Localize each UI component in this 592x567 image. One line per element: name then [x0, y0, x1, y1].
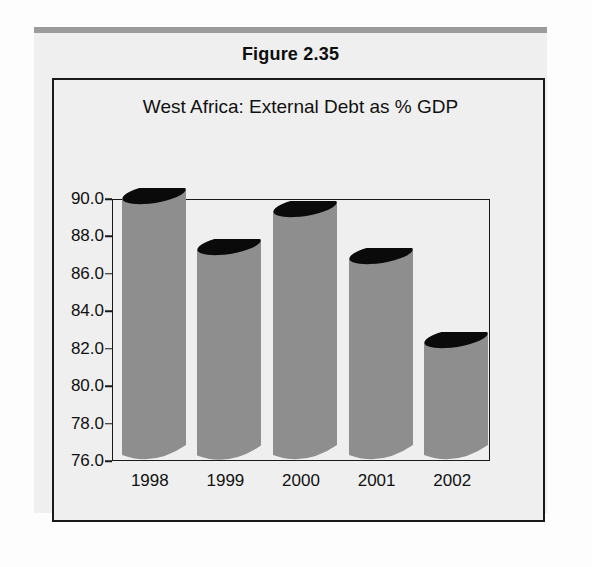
y-axis-tick-label: 84.0	[48, 301, 104, 321]
y-axis-tick-mark	[105, 348, 112, 350]
chart-container: West Africa: External Debt as % GDP 90.0…	[52, 78, 545, 522]
y-axis-tick-mark	[105, 423, 112, 425]
top-rule-divider	[34, 27, 547, 33]
y-axis-tick-label: 78.0	[48, 414, 104, 434]
y-axis-tick-label: 88.0	[48, 226, 104, 246]
y-axis-tick-mark	[105, 273, 112, 275]
bar-2002	[424, 332, 488, 465]
bar-body	[122, 189, 186, 459]
bar-body	[273, 202, 337, 459]
y-axis-tick-label: 80.0	[48, 376, 104, 396]
y-axis-tick-label: 90.0	[48, 189, 104, 209]
x-axis-tick-label: 1999	[206, 471, 244, 491]
bar-body	[349, 249, 413, 459]
y-axis-tick-mark	[105, 198, 112, 200]
x-axis-tick-label: 2002	[433, 471, 471, 491]
x-axis-tick-label: 1998	[131, 471, 169, 491]
bar-2001	[349, 248, 413, 465]
figure-caption: Figure 2.35	[34, 44, 547, 65]
bar-body	[424, 333, 488, 459]
bar-2000	[273, 201, 337, 465]
y-axis-tick-mark	[105, 236, 112, 238]
bar-body	[197, 240, 261, 460]
y-axis-tick-label: 86.0	[48, 264, 104, 284]
y-axis-tick-mark	[105, 311, 112, 313]
y-axis-tick-label: 76.0	[48, 451, 104, 471]
x-axis-tick-label: 2000	[282, 471, 320, 491]
y-axis-tick-label: 82.0	[48, 339, 104, 359]
bar-1998	[122, 188, 186, 465]
chart-title: West Africa: External Debt as % GDP	[54, 96, 547, 118]
x-axis-tick-label: 2001	[358, 471, 396, 491]
y-axis-tick-mark	[105, 460, 112, 462]
y-axis-tick-mark	[105, 385, 112, 387]
bar-1999	[197, 239, 261, 465]
